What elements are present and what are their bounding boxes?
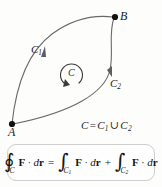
integral-c1-subscript-num: 1 <box>69 169 72 175</box>
integral-c1-group: ∫C1 <box>58 155 76 169</box>
union-lhs: C <box>81 119 89 131</box>
union-equals: = <box>89 119 98 131</box>
union-term2-subscript: 2 <box>128 125 132 133</box>
line-integral-formula: ∮C F · dr = ∫C1 F · dr + ∫C2 F · dr <box>4 155 157 169</box>
integral-c2-group: ∫C2 <box>115 155 133 169</box>
curve-c1-label-subscript: 1 <box>38 49 42 57</box>
closed-integral-group: ∮C <box>4 155 19 169</box>
curve-c2-label-subscript: 2 <box>117 83 121 91</box>
differential-r-1: r <box>39 156 44 168</box>
dot-operator-2: · <box>85 157 88 168</box>
curve-c2-path <box>13 18 114 124</box>
differential-dr-1: dr <box>34 156 44 168</box>
differential-dr-2: dr <box>90 156 100 168</box>
orientation-marker-label: C <box>68 68 75 78</box>
point-b-label: B <box>120 10 127 22</box>
integral-c2-subscript-num: 2 <box>125 169 128 175</box>
union-term1: C <box>97 119 105 131</box>
differential-r-3: r <box>153 156 158 168</box>
orientation-arrowhead <box>63 79 70 87</box>
integral-c2-subscript: C2 <box>120 166 128 175</box>
curve-c1-path <box>12 16 113 124</box>
formula-plus: + <box>105 156 111 168</box>
closed-integral-subscript: C <box>9 166 14 175</box>
point-a-label: A <box>8 126 15 138</box>
vector-field-f-2: F <box>75 156 82 168</box>
formula-equals: = <box>48 156 54 168</box>
vector-field-f-3: F <box>132 156 139 168</box>
differential-r-2: r <box>96 156 101 168</box>
dot-operator-3: · <box>141 157 144 168</box>
integral-c1-subscript: C1 <box>64 166 72 175</box>
vector-field-f-1: F <box>18 156 25 168</box>
line-integral-formula-box: ∮C F · dr = ∫C1 F · dr + ∫C2 F · dr <box>7 144 155 181</box>
differential-dr-3: dr <box>147 156 157 168</box>
point-b-dot <box>112 14 118 20</box>
union-symbol: ∪ <box>109 119 121 131</box>
curve-c1-label: C1 <box>31 44 42 57</box>
figure-panel: B A C1 C2 C C=C1∪C2 ∮C F · dr = ∫C1 F · … <box>0 0 162 187</box>
curve-c2-label: C2 <box>110 78 121 91</box>
dot-operator-1: · <box>28 157 31 168</box>
curve-union-statement: C=C1∪C2 <box>81 120 132 133</box>
union-term2: C <box>120 119 128 131</box>
